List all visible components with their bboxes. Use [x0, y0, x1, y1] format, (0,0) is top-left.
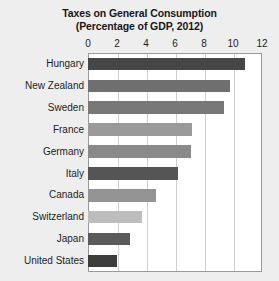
bar-row [88, 53, 262, 75]
bar [88, 189, 156, 202]
category-label: Hungary [0, 53, 84, 75]
bar-row [88, 75, 262, 97]
category-label: Switzerland [0, 206, 84, 228]
bar-row [88, 119, 262, 141]
bar [88, 211, 142, 224]
category-label: Italy [0, 163, 84, 185]
bar-row [88, 97, 262, 119]
category-label: New Zealand [0, 75, 84, 97]
bar [88, 233, 130, 246]
x-tick-label: 4 [143, 38, 149, 49]
chart-title-block: Taxes on General Consumption (Percentage… [0, 7, 279, 33]
bar-row [88, 163, 262, 185]
page-title: Taxes on General Consumption [0, 7, 279, 20]
category-label: Germany [0, 141, 84, 163]
bar-row [88, 250, 262, 272]
bar [88, 101, 224, 114]
bar-row [88, 228, 262, 250]
x-tick-label: 12 [256, 38, 267, 49]
bar [88, 123, 192, 136]
x-tick-label: 6 [172, 38, 178, 49]
y-axis-category-labels: HungaryNew ZealandSwedenFranceGermanyIta… [0, 53, 84, 272]
category-label: Sweden [0, 97, 84, 119]
bar-row [88, 184, 262, 206]
x-tick-label: 2 [114, 38, 120, 49]
x-tick-label: 10 [227, 38, 238, 49]
bar [88, 145, 191, 158]
bar [88, 167, 178, 180]
bar [88, 58, 245, 71]
bars-layer [88, 53, 262, 272]
category-label: United States [0, 250, 84, 272]
chart-subtitle: (Percentage of GDP, 2012) [0, 20, 279, 33]
x-axis-tick-labels: 024681012 [88, 38, 262, 52]
bar-row [88, 141, 262, 163]
category-label: France [0, 119, 84, 141]
bar-chart: Taxes on General Consumption (Percentage… [0, 0, 279, 281]
bar [88, 80, 230, 93]
category-label: Canada [0, 184, 84, 206]
bar-row [88, 206, 262, 228]
x-tick-label: 0 [85, 38, 91, 49]
x-tick-label: 8 [201, 38, 207, 49]
category-label: Japan [0, 228, 84, 250]
bar [88, 255, 117, 268]
